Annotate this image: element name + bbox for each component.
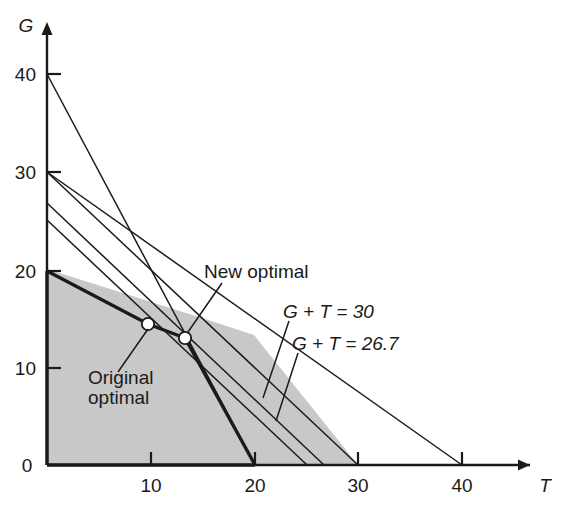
objective-30-label: G + T = 30 [283,301,374,322]
x-tick-label-30: 30 [347,475,368,496]
chart-figure: 0 10 20 30 40 10 20 30 40 G T [0,0,570,519]
new-optimal-marker [179,332,191,344]
objective-26-7-label: G + T = 26.7 [292,333,400,354]
y-tick-label-20: 20 [15,261,36,282]
x-tick-label-0: 0 [22,455,33,476]
y-tick-label-10: 10 [15,358,36,379]
original-optimal-marker [142,318,154,330]
new-optimal-label: New optimal [204,261,309,282]
lp-graph-svg: 0 10 20 30 40 10 20 30 40 G T [0,0,570,519]
original-optimal-label-line1: Original [88,367,153,388]
x-tick-label-20: 20 [244,475,265,496]
x-tick-label-10: 10 [140,475,161,496]
original-optimal-label-line2: optimal [88,387,149,408]
x-tick-label-40: 40 [451,475,472,496]
y-tick-label-30: 30 [15,162,36,183]
x-axis-label: T [539,475,552,496]
y-tick-label-40: 40 [15,64,36,85]
y-axis-label: G [19,15,34,36]
